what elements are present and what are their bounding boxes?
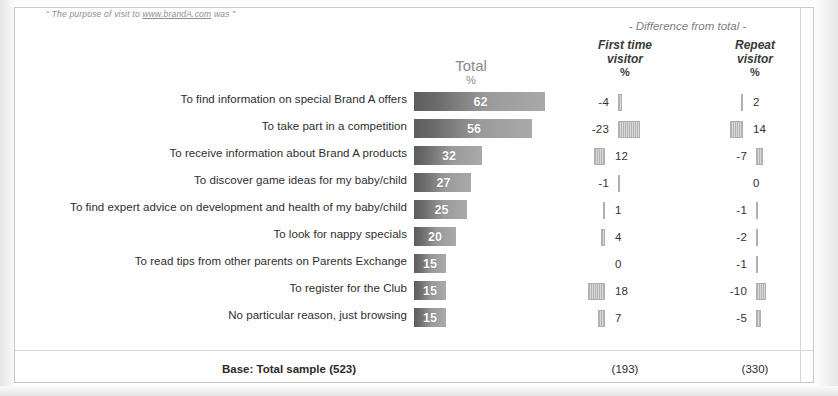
first-visitor-diff-cell: 0	[552, 253, 672, 275]
first-visitor-diff-cell: -23	[552, 118, 672, 140]
scan-edge-bottom	[0, 386, 838, 396]
first-visitor-unit: %	[570, 66, 680, 79]
table-row: To look for nappy specials204-2	[0, 224, 838, 251]
negative-side: -2	[690, 231, 750, 243]
positive-side	[750, 256, 810, 273]
total-unit: %	[432, 75, 510, 87]
repeat-visitor-diff-bar	[756, 310, 761, 327]
negative-side: -1	[552, 177, 612, 189]
negative-side: -4	[552, 96, 612, 108]
positive-side: 1	[612, 204, 672, 216]
first-visitor-diff-bar	[603, 202, 605, 219]
positive-side	[750, 283, 810, 300]
chart-title-note: “ The purpose of visit to www.brandA.com…	[46, 9, 235, 19]
total-bar: 15	[414, 281, 446, 300]
positive-side: 2	[750, 96, 810, 108]
first-visitor-diff-cell: 4	[552, 226, 672, 248]
first-visitor-diff-value: -1	[598, 177, 609, 189]
negative-side	[690, 121, 750, 138]
first-visitor-line2: visitor	[607, 52, 643, 66]
first-visitor-diff-value: 0	[615, 258, 622, 270]
total-bar: 25	[414, 200, 467, 219]
total-bar: 32	[414, 146, 482, 165]
repeat-visitor-diff-value: -2	[736, 231, 747, 243]
repeat-visitor-diff-cell: -1	[690, 199, 810, 221]
positive-side	[750, 229, 810, 246]
positive-side	[750, 310, 810, 327]
table-row: To register for the Club1518-10	[0, 278, 838, 305]
total-bar-value: 20	[414, 230, 456, 244]
positive-side: 7	[612, 312, 672, 324]
total-bar-value: 15	[414, 284, 446, 298]
negative-side	[552, 148, 612, 165]
positive-side	[750, 202, 810, 219]
total-column-header: Total %	[432, 58, 510, 86]
difference-from-total-banner: - Difference from total -	[575, 20, 800, 32]
negative-side: -5	[690, 312, 750, 324]
total-bar-cell: 15	[414, 281, 446, 300]
table-row: To receive information about Brand A pro…	[0, 143, 838, 170]
total-bar: 15	[414, 308, 446, 327]
repeat-visitor-diff-bar	[756, 202, 758, 219]
row-label: To look for nappy specials	[273, 228, 407, 240]
repeat-visitor-diff-value: -10	[730, 285, 747, 297]
first-visitor-diff-cell: 18	[552, 280, 672, 302]
repeat-visitor-header: Repeat visitor %	[700, 38, 810, 79]
total-bar-cell: 62	[414, 92, 545, 111]
total-bar: 27	[414, 173, 471, 192]
chart-rows: To find information on special Brand A o…	[0, 89, 838, 332]
repeat-visitor-diff-value: -1	[736, 204, 747, 216]
total-bar-cell: 27	[414, 173, 471, 192]
slide: “ The purpose of visit to www.brandA.com…	[0, 0, 838, 396]
first-visitor-diff-bar	[618, 121, 640, 138]
total-bar-value: 32	[438, 149, 460, 163]
repeat-visitor-diff-bar	[730, 121, 743, 138]
first-visitor-diff-bar	[588, 283, 605, 300]
total-bar-cell: 32	[414, 146, 482, 165]
negative-side	[690, 94, 750, 111]
repeat-visitor-diff-cell: -1	[690, 253, 810, 275]
table-row: No particular reason, just browsing157-5	[0, 305, 838, 332]
first-visitor-diff-value: 4	[615, 231, 622, 243]
first-visitor-diff-cell: -1	[552, 172, 672, 194]
total-bar-value: 25	[431, 203, 453, 217]
first-visitor-diff-bar	[598, 310, 605, 327]
total-bar-cell: 20	[414, 227, 456, 246]
row-label: To take part in a competition	[262, 120, 407, 132]
first-visitor-diff-bar	[618, 94, 622, 111]
total-bar-value: 56	[463, 122, 485, 136]
first-visitor-diff-cell: -4	[552, 91, 672, 113]
table-row: To read tips from other parents on Paren…	[0, 251, 838, 278]
row-label: To read tips from other parents on Paren…	[135, 255, 407, 267]
positive-side	[612, 121, 672, 138]
total-bar-cell: 15	[414, 308, 446, 327]
repeat-visitor-line2: visitor	[737, 52, 773, 66]
repeat-visitor-diff-cell: -7	[690, 145, 810, 167]
total-bar-cell: 15	[414, 254, 446, 273]
note-prefix: “ The purpose of visit to	[46, 9, 142, 19]
positive-side	[612, 94, 672, 111]
negative-side: -1	[690, 258, 750, 270]
first-visitor-diff-value: 12	[615, 150, 628, 162]
brand-url: www.brandA.com	[142, 9, 211, 19]
positive-side	[750, 148, 810, 165]
total-bar: 15	[414, 254, 446, 273]
base-repeat-visitor: (330)	[700, 363, 810, 375]
table-row: To find information on special Brand A o…	[0, 89, 838, 116]
table-row: To find expert advice on development and…	[0, 197, 838, 224]
first-visitor-diff-value: 7	[615, 312, 622, 324]
row-label: To find expert advice on development and…	[70, 201, 407, 213]
positive-side	[612, 175, 672, 192]
repeat-visitor-diff-value: 14	[753, 123, 766, 135]
negative-side: -7	[690, 150, 750, 162]
first-visitor-diff-cell: 12	[552, 145, 672, 167]
first-visitor-line1: First time	[598, 38, 652, 52]
repeat-visitor-diff-bar	[756, 229, 758, 246]
first-visitor-diff-bar	[594, 148, 605, 165]
repeat-visitor-diff-cell: 0	[690, 172, 810, 194]
total-bar: 56	[414, 119, 532, 138]
repeat-visitor-diff-bar	[756, 283, 766, 300]
total-bar-value: 62	[470, 95, 492, 109]
repeat-visitor-diff-value: 2	[753, 96, 760, 108]
total-label: Total	[455, 57, 487, 74]
